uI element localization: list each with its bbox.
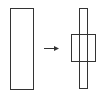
transformation-diagram (0, 0, 103, 93)
after-square-box (72, 35, 96, 62)
before-rectangle (11, 9, 34, 90)
after-thin-bar (80, 9, 88, 89)
